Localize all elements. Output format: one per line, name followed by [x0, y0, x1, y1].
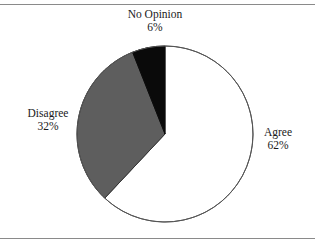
pie-label-disagree-value: 32% [6, 120, 90, 133]
pie-label-no-opinion: No Opinion 6% [90, 8, 220, 33]
pie-label-agree-name: Agree [246, 126, 310, 139]
bottom-divider-rule [0, 238, 315, 239]
pie-label-no-opinion-value: 6% [90, 21, 220, 34]
pie-label-agree: Agree 62% [246, 126, 310, 151]
pie-label-disagree-name: Disagree [6, 107, 90, 120]
pie-label-disagree: Disagree 32% [6, 107, 90, 132]
pie-label-agree-value: 62% [246, 139, 310, 152]
pie-chart-figure: No Opinion 6% Disagree 32% Agree 62% [0, 0, 315, 250]
pie-label-no-opinion-name: No Opinion [90, 8, 220, 21]
